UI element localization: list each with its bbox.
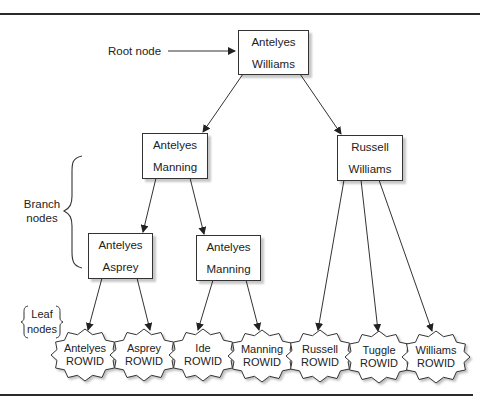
- branch-node-antelyes-manning-2: Antelyes Manning: [196, 235, 261, 281]
- branch-nodes-label-line2: nodes: [20, 211, 64, 225]
- branch-node-line2: Manning: [153, 156, 197, 178]
- leaf-line2: ROWID: [349, 357, 409, 370]
- leaf-line1: Ide: [173, 342, 233, 355]
- leaf-line2: ROWID: [232, 356, 292, 369]
- leaf-line1: Antelyes: [55, 342, 115, 355]
- leaf-line1: Tuggle: [349, 344, 409, 357]
- leaf-nodes-label: Leaf nodes: [26, 307, 58, 337]
- branch-nodes-label: Branch nodes: [20, 197, 64, 225]
- edge-branch2-leaf1: [137, 278, 150, 330]
- leaf-nodes-label-line1: Leaf: [26, 307, 58, 322]
- edge-branch0-branch3: [190, 178, 204, 234]
- branch-node-russell-williams: Russell Williams: [337, 135, 403, 181]
- branch-node-line2: Manning: [206, 258, 250, 280]
- edge-branch1-leaf4: [318, 180, 344, 330]
- leaf-line1: Manning: [232, 343, 292, 356]
- leaf-nodes-label-line2: nodes: [26, 322, 58, 337]
- root-node-line2: Williams: [252, 53, 295, 75]
- edge-branch0-branch2: [143, 178, 156, 232]
- leaf-line1: Williams: [406, 344, 466, 357]
- branch-node-line1: Antelyes: [206, 236, 250, 258]
- leaf-node-asprey: Asprey ROWID: [114, 342, 174, 368]
- branch-node-antelyes-manning: Antelyes Manning: [142, 133, 208, 179]
- branch-node-antelyes-asprey: Antelyes Asprey: [88, 233, 153, 279]
- root-node: Antelyes Williams: [238, 30, 309, 75]
- branch-node-line2: Asprey: [103, 256, 139, 278]
- leaf-node-ide: Ide ROWID: [173, 342, 233, 368]
- branch-node-line1: Antelyes: [98, 234, 142, 256]
- leaf-node-williams: Williams ROWID: [406, 344, 466, 370]
- branch-node-line2: Williams: [349, 158, 392, 180]
- edge-root-branch1: [300, 74, 341, 134]
- leaf-line1: Asprey: [114, 342, 174, 355]
- edge-branch2-leaf0: [88, 278, 102, 330]
- leaf-line2: ROWID: [173, 355, 233, 368]
- edge-branch3-leaf3: [246, 280, 259, 330]
- leaf-node-russell: Russell ROWID: [290, 343, 350, 369]
- edge-root-branch0: [203, 74, 243, 132]
- edge-branch1-leaf5: [361, 180, 378, 331]
- branch-nodes-brace: [64, 156, 82, 268]
- branch-node-line1: Antelyes: [153, 134, 197, 156]
- leaf-line2: ROWID: [406, 357, 466, 370]
- leaf-node-manning: Manning ROWID: [232, 343, 292, 369]
- leaf-line1: Russell: [290, 343, 350, 356]
- branch-node-line1: Russell: [351, 136, 389, 158]
- root-node-line1: Antelyes: [251, 31, 295, 53]
- leaf-line2: ROWID: [55, 355, 115, 368]
- leaf-line2: ROWID: [114, 355, 174, 368]
- leaf-line2: ROWID: [290, 356, 350, 369]
- root-node-label: Root node: [108, 44, 161, 58]
- leaf-node-tuggle: Tuggle ROWID: [349, 344, 409, 370]
- edge-branch3-leaf2: [198, 280, 213, 330]
- branch-nodes-label-line1: Branch: [20, 197, 64, 211]
- edge-branch1-leaf6: [379, 180, 432, 331]
- leaf-node-antelyes: Antelyes ROWID: [55, 342, 115, 368]
